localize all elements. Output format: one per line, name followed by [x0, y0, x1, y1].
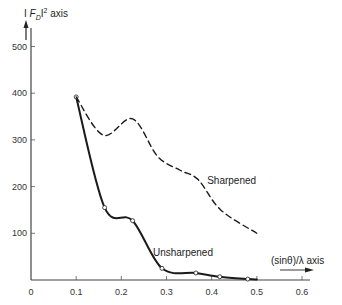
x-tick-label: 0.3	[160, 287, 173, 297]
data-point-marker	[103, 206, 107, 210]
data-point-marker	[218, 275, 222, 279]
sharpened-line	[76, 97, 257, 233]
x-axis-arrow-icon	[280, 268, 314, 273]
x-tick-label: 0.1	[70, 287, 83, 297]
data-point-marker	[246, 277, 250, 281]
y-tick-label: 400	[12, 88, 27, 98]
x-axis-title: (sinθ)/λ axis	[271, 255, 324, 266]
data-point-marker	[131, 219, 135, 223]
series-label-unsharpened: Unsharpened	[153, 247, 213, 258]
x-tick-label: 0.4	[205, 287, 218, 297]
series-sharpened	[76, 97, 257, 233]
series-label-sharpened: Sharpened	[207, 175, 256, 186]
data-point-marker	[160, 266, 164, 270]
x-tick-label: 0.2	[115, 287, 128, 297]
y-tick-label: 100	[12, 228, 27, 238]
y-axis-arrow-icon	[24, 20, 29, 40]
data-point-marker	[194, 271, 198, 275]
x-ticks: 00.10.20.30.40.50.6	[28, 276, 308, 297]
chart: 100200300400500 00.10.20.30.40.50.6 I FD…	[0, 0, 342, 305]
x-tick-label: 0	[28, 287, 33, 297]
x-tick-label: 0.5	[251, 287, 264, 297]
y-tick-label: 200	[12, 182, 27, 192]
y-tick-label: 500	[12, 42, 27, 52]
x-tick-label: 0.6	[296, 287, 309, 297]
y-axis-title: I FDI2 axis	[24, 7, 68, 21]
y-tick-label: 300	[12, 135, 27, 145]
